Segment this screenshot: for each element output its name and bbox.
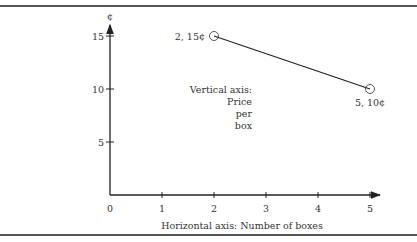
data-label: 5, 10¢ bbox=[355, 97, 385, 108]
data-label: 2, 15¢ bbox=[175, 31, 205, 42]
y-axis-label-line: box bbox=[152, 120, 252, 132]
y-unit-label: ¢ bbox=[107, 11, 113, 22]
x-tick-label: 5 bbox=[367, 203, 373, 214]
y-axis-label-line: Vertical axis: bbox=[152, 84, 252, 96]
y-axis-label: Vertical axis: Price per box bbox=[152, 84, 252, 132]
y-axis-label-line: per bbox=[152, 108, 252, 120]
x-tick-label: 4 bbox=[315, 203, 321, 214]
x-tick-label: 2 bbox=[211, 203, 217, 214]
x-axis-label: Horizontal axis: Number of boxes bbox=[161, 220, 323, 231]
x-tick-label: 1 bbox=[159, 203, 165, 214]
y-tick-label: 10 bbox=[92, 84, 104, 95]
x-tick-label: 3 bbox=[263, 203, 269, 214]
series-line bbox=[214, 36, 370, 89]
x-tick-label: 0 bbox=[107, 203, 113, 214]
y-axis-label-line: Price bbox=[152, 96, 252, 108]
y-tick-label: 5 bbox=[98, 137, 104, 148]
y-tick-label: 15 bbox=[92, 31, 104, 42]
